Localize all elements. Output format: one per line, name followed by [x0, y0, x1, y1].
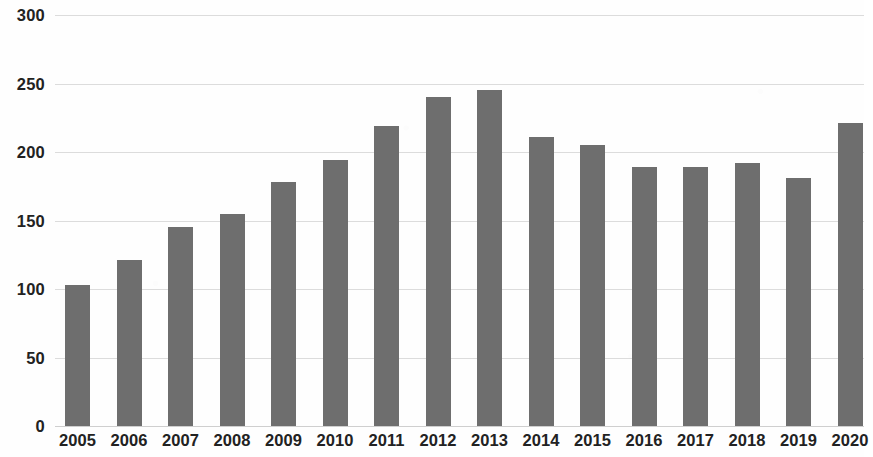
bar [735, 163, 760, 426]
x-axis-tick-label: 2018 [720, 432, 774, 449]
y-axis-tick-label: 250 [0, 76, 45, 93]
x-axis-tick-label: 2007 [154, 432, 208, 449]
y-axis-tick-label: 0 [0, 418, 45, 435]
bar [683, 167, 708, 426]
x-axis-tick-label: 2016 [617, 432, 671, 449]
bar [323, 160, 348, 426]
y-axis-tick-label: 300 [0, 7, 45, 24]
y-axis: 050100150200250300 [0, 0, 50, 457]
bar [168, 227, 193, 426]
y-axis-tick-label: 150 [0, 213, 45, 230]
x-axis-tick-label: 2015 [566, 432, 620, 449]
x-axis-tick-label: 2020 [823, 432, 873, 449]
bar [580, 145, 605, 426]
gridline-300 [55, 15, 864, 16]
bar [786, 178, 811, 426]
x-axis-tick-label: 2008 [205, 432, 259, 449]
bar [529, 137, 554, 426]
x-axis-tick-label: 2013 [463, 432, 517, 449]
bar [477, 90, 502, 426]
x-axis-tick-label: 2017 [669, 432, 723, 449]
bar [374, 126, 399, 426]
x-axis-tick-label: 2010 [308, 432, 362, 449]
bar [838, 123, 863, 426]
x-axis-tick-label: 2006 [102, 432, 156, 449]
gridline-200 [55, 152, 864, 153]
bar [117, 260, 142, 426]
x-axis-tick-label: 2014 [514, 432, 568, 449]
bar [632, 167, 657, 426]
x-axis-tick-label: 2019 [772, 432, 826, 449]
x-axis-tick-label: 2009 [257, 432, 311, 449]
bar [271, 182, 296, 426]
x-axis-tick-label: 2012 [411, 432, 465, 449]
y-axis-tick-label: 100 [0, 281, 45, 298]
bar [426, 97, 451, 426]
x-axis-tick-label: 2005 [51, 432, 105, 449]
bar [220, 214, 245, 426]
bar [65, 285, 90, 426]
x-axis-tick-label: 2011 [360, 432, 414, 449]
plot-area: 2005200620072008200920102011201220132014… [55, 0, 864, 457]
y-axis-tick-label: 200 [0, 144, 45, 161]
y-axis-tick-label: 50 [0, 350, 45, 367]
gridline-250 [55, 84, 864, 85]
gridline-0 [55, 426, 864, 427]
